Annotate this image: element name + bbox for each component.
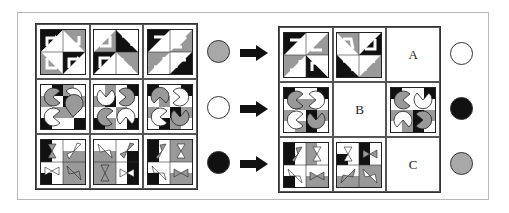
left-cell-r3c1 [36, 134, 90, 189]
black-circle [207, 151, 230, 174]
left-cell-r2c1 [36, 79, 90, 134]
pacman-figure [40, 84, 86, 130]
arrow-figure [283, 32, 329, 78]
arrow-figure [40, 29, 86, 75]
bowtie-figure [283, 142, 329, 188]
left-cell-r1c3 [143, 24, 197, 79]
pacman-figure [93, 84, 139, 130]
right-cell-r2c3 [386, 82, 440, 137]
white-circle [450, 42, 473, 65]
left-cell-r1c2 [90, 24, 144, 79]
left-cell-r2c3 [143, 79, 197, 134]
right-cell-r1c2 [333, 27, 387, 82]
right-matrix: A B [278, 26, 441, 193]
answer-slot-a[interactable]: A [386, 27, 440, 82]
white-circle [207, 96, 230, 119]
right-cell-r3c2 [333, 137, 387, 192]
bowtie-figure [147, 139, 193, 185]
right-cell-r2c1 [279, 82, 333, 137]
arrow-figure [93, 29, 139, 75]
label-c: C [409, 157, 418, 173]
left-cell-r3c3 [143, 134, 197, 189]
gray-circle [450, 152, 473, 175]
label-a: A [408, 47, 417, 63]
pacman-figure [283, 87, 329, 133]
right-arrow-icon [240, 156, 268, 172]
right-cell-r3c1 [279, 137, 333, 192]
bowtie-figure [40, 139, 86, 185]
answer-slot-b[interactable]: B [333, 82, 387, 137]
left-cell-r1c1 [36, 24, 90, 79]
arrow-figure [147, 29, 193, 75]
right-arrow-icon [240, 101, 268, 117]
pacman-figure [390, 87, 436, 133]
arrow-figure [336, 32, 382, 78]
left-cell-r3c2 [90, 134, 144, 189]
bowtie-figure [93, 139, 139, 185]
gray-circle [207, 40, 230, 63]
right-arrow-icon [240, 45, 268, 61]
left-matrix [35, 23, 198, 190]
black-circle [450, 97, 473, 120]
label-b: B [355, 102, 364, 118]
left-cell-r2c2 [90, 79, 144, 134]
right-cell-r1c1 [279, 27, 333, 82]
answer-slot-c[interactable]: C [386, 137, 440, 192]
bowtie-figure [336, 142, 382, 188]
pacman-figure [147, 84, 193, 130]
